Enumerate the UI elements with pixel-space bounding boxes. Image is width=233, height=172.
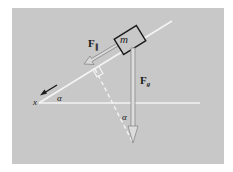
- x-axis-label: x: [32, 97, 37, 107]
- angle-alpha-lower: α: [122, 112, 127, 122]
- mass-label: m: [120, 33, 128, 45]
- angle-alpha-base: α: [57, 93, 62, 103]
- incline-diagram: m F∥ Fg x α α: [0, 0, 233, 172]
- diagram-background: [12, 8, 224, 164]
